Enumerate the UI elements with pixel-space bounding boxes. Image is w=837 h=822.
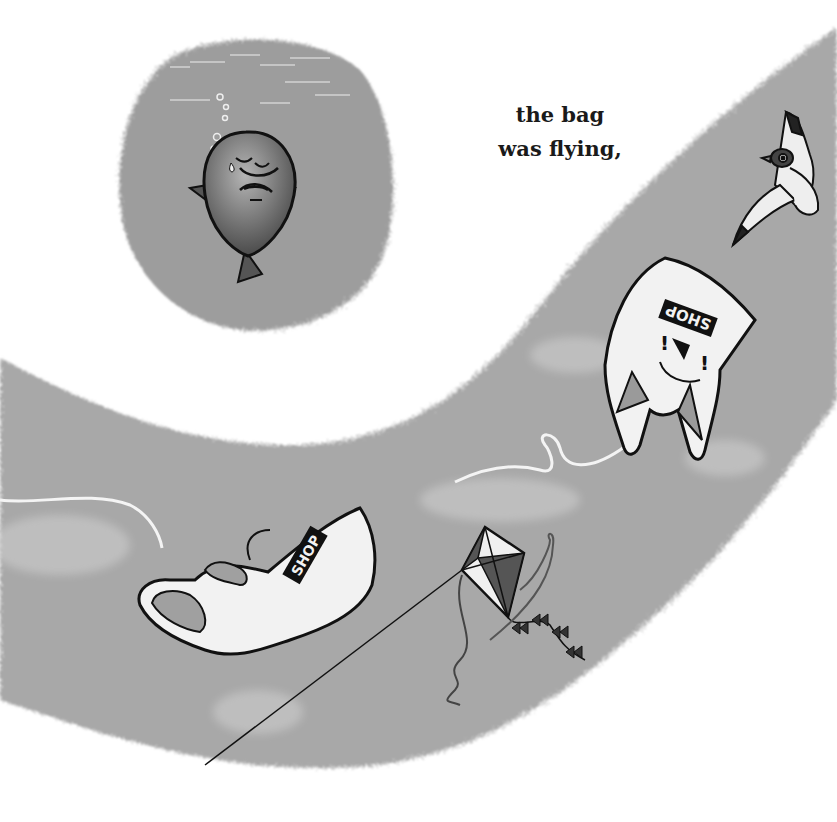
caption-line-1: the bag [470, 98, 650, 132]
svg-text:!: ! [660, 331, 669, 355]
book-page: SHOP ! ! SHOP [0, 0, 837, 822]
illustration: SHOP ! ! SHOP [0, 0, 837, 822]
caption-line-2: was flying, [470, 132, 650, 166]
svg-text:!: ! [700, 351, 709, 375]
story-caption: the bag was flying, [470, 98, 650, 166]
sad-fish-underwater [119, 39, 393, 330]
